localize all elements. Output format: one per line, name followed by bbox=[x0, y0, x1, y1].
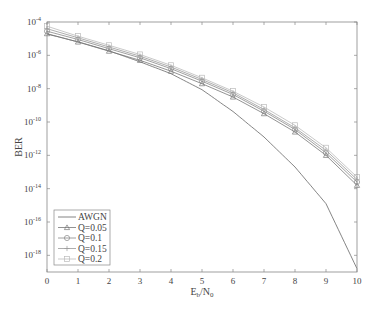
legend: AWGNQ=0.05Q=0.1Q=0.15Q=0.2 bbox=[54, 210, 110, 265]
legend-label: AWGN bbox=[78, 212, 107, 222]
y-tick-label: 10-8 bbox=[27, 83, 41, 94]
x-tick-label: 0 bbox=[45, 276, 50, 286]
legend-label: Q=0.05 bbox=[78, 223, 107, 233]
x-tick-label: 3 bbox=[138, 276, 143, 286]
x-tick-label: 1 bbox=[76, 276, 81, 286]
y-tick-label: 10-14 bbox=[24, 183, 41, 194]
x-tick-label: 7 bbox=[262, 276, 267, 286]
x-tick-label: 10 bbox=[353, 276, 363, 286]
series-q-0-05 bbox=[44, 31, 359, 187]
x-tick-label: 8 bbox=[293, 276, 298, 286]
y-tick-label: 10-10 bbox=[24, 116, 41, 127]
x-tick-label: 5 bbox=[200, 276, 205, 286]
legend-label: Q=0.15 bbox=[78, 244, 107, 254]
y-tick-label: 10-4 bbox=[27, 16, 41, 27]
ber-chart: 01234567891010-410-610-810-1010-1210-141… bbox=[0, 0, 379, 312]
x-axis-label: Eb/N0 bbox=[190, 286, 214, 299]
x-tick-label: 9 bbox=[324, 276, 329, 286]
y-axis-label: BER bbox=[13, 137, 24, 157]
x-tick-label: 4 bbox=[169, 276, 174, 286]
series-q-0-1 bbox=[44, 29, 359, 185]
y-tick-label: 10-12 bbox=[24, 149, 41, 160]
legend-label: Q=0.1 bbox=[78, 233, 102, 243]
y-tick-label: 10-16 bbox=[24, 216, 41, 227]
series-q-0-15 bbox=[44, 26, 359, 182]
legend-label: Q=0.2 bbox=[78, 254, 102, 264]
y-tick-label: 10-6 bbox=[27, 49, 41, 60]
x-tick-label: 2 bbox=[107, 276, 112, 286]
series-q-0-2 bbox=[44, 24, 359, 180]
x-tick-label: 6 bbox=[231, 276, 236, 286]
y-tick-label: 10-18 bbox=[24, 249, 41, 260]
